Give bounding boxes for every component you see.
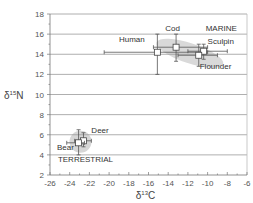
y-tick-label: 8 <box>40 111 45 120</box>
y-tick-label: 12 <box>35 70 44 79</box>
square-marker-icon <box>76 140 82 146</box>
label-cod: Cod <box>165 24 180 33</box>
x-tick-label: -10 <box>202 179 214 188</box>
square-marker-icon <box>196 52 202 58</box>
label-sculpin: Sculpin <box>208 37 234 46</box>
x-tick-label: -18 <box>123 179 135 188</box>
x-axis-title: δ13C <box>136 190 156 201</box>
label-human: Human <box>119 35 145 44</box>
y-tick-label: 6 <box>40 131 45 140</box>
y-tick-label: 14 <box>35 50 44 59</box>
label-terrestrial: TERRESTRIAL <box>58 155 114 164</box>
x-tick-label: -12 <box>182 179 194 188</box>
y-tick-label: 18 <box>35 10 44 19</box>
label-bear: Bear <box>57 143 74 152</box>
label-marine: MARINE <box>206 24 237 33</box>
isotope-scatter-chart: 24681012141618-26-24-22-20-18-16-14-12-1… <box>0 0 253 203</box>
x-tick-label: -20 <box>103 179 115 188</box>
x-tick-label: -16 <box>143 179 155 188</box>
x-tick-label: -8 <box>224 179 232 188</box>
square-marker-icon <box>154 49 160 55</box>
square-marker-icon <box>173 44 179 50</box>
y-tick-label: 16 <box>35 30 44 39</box>
y-tick-label: 10 <box>35 91 44 100</box>
y-tick-label: 4 <box>40 151 45 160</box>
y-axis-title: δ15N <box>4 90 24 101</box>
label-flounder: Flounder <box>200 62 232 71</box>
x-tick-label: -6 <box>243 179 251 188</box>
x-tick-label: -22 <box>84 179 96 188</box>
x-tick-label: -26 <box>44 179 56 188</box>
label-deer: Deer <box>91 126 109 135</box>
x-tick-label: -14 <box>162 179 174 188</box>
x-tick-label: -24 <box>64 179 76 188</box>
